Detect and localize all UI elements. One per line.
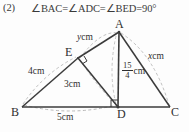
unit-ae: cm xyxy=(81,32,93,42)
arc-ad-measure xyxy=(112,36,116,104)
vertex-label-c: C xyxy=(171,106,179,118)
measure-label-ac: xcm xyxy=(148,52,164,62)
unit-ac: cm xyxy=(152,51,164,61)
vertex-label-d: D xyxy=(117,108,126,120)
vertex-label-e: E xyxy=(65,46,72,58)
measure-label-ed: 3cm xyxy=(64,80,80,90)
vertex-dot-e xyxy=(77,57,79,59)
arc-bd-measure xyxy=(24,105,116,111)
vertex-label-b: B xyxy=(11,106,19,118)
measure-label-bd: 5cm xyxy=(57,113,73,123)
fraction-denominator: 4 xyxy=(122,71,133,80)
vertex-dot-a xyxy=(118,31,121,34)
measure-label-ae: ycm xyxy=(77,33,93,43)
geometry-figure-panel: (2) ∠BAC=∠ADC=∠BED=90° A B C D E 4cm 3cm… xyxy=(0,0,189,132)
fraction-15-over-4: 154 xyxy=(122,61,133,80)
measure-label-ad: 154cm xyxy=(122,62,145,81)
unit-ad: cm xyxy=(133,67,146,77)
segment-ad xyxy=(118,32,119,107)
measure-label-be: 4cm xyxy=(28,67,44,77)
vertex-label-a: A xyxy=(115,18,124,30)
